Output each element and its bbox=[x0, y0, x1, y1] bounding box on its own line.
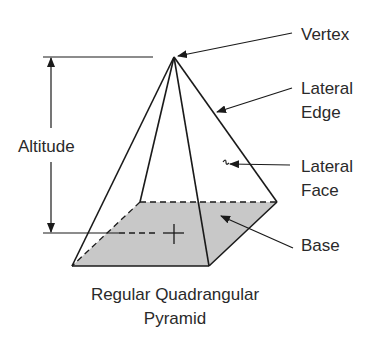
lateral-edge-label-line2: Edge bbox=[301, 103, 341, 122]
vertex-label: Vertex bbox=[301, 25, 350, 44]
lateral-face-label-line1: Lateral bbox=[301, 157, 353, 176]
altitude-label: Altitude bbox=[18, 137, 75, 156]
base-label: Base bbox=[301, 236, 340, 255]
lateral-face-marker bbox=[223, 160, 229, 164]
lateral-face-label-line2: Face bbox=[301, 181, 339, 200]
lateral-edge-label-line1: Lateral bbox=[301, 79, 353, 98]
caption-line2: Pyramid bbox=[144, 309, 206, 328]
caption-line1: Regular Quadrangular bbox=[91, 285, 260, 304]
pyramid-diagram: Altitude Vertex Lateral Edge Lateral Fac… bbox=[0, 0, 378, 348]
